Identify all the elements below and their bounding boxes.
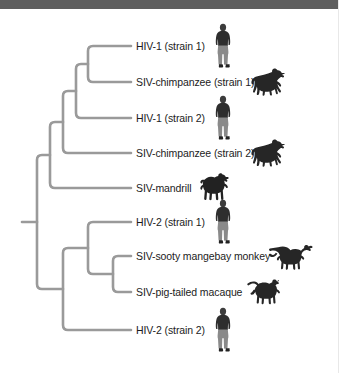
human-silhouette-icon bbox=[210, 23, 236, 69]
mangabey-monkey-silhouette-icon bbox=[268, 239, 320, 273]
tip-label-hiv1-strain1: HIV-1 (strain 1) bbox=[136, 40, 205, 52]
tip-label-siv-sooty-mangabey: SIV-sooty mangebay monkey bbox=[136, 250, 270, 262]
macaque-silhouette-icon bbox=[245, 276, 285, 308]
tip-label-hiv1-strain2: HIV-1 (strain 2) bbox=[136, 112, 205, 124]
tip-label-hiv2-strain2: HIV-2 (strain 2) bbox=[136, 324, 205, 336]
human-silhouette-icon bbox=[210, 199, 236, 245]
human-silhouette-icon bbox=[210, 95, 236, 141]
tip-label-hiv2-strain1: HIV-2 (strain 1) bbox=[136, 216, 205, 228]
human-silhouette-icon bbox=[210, 307, 236, 353]
node-hiv2-clade bbox=[63, 248, 131, 330]
node-hiv1s1-sivchimps1 bbox=[88, 46, 131, 82]
node-clade-chimp-hiv1 bbox=[63, 91, 131, 153]
figure-canvas: HIV-1 (strain 1)SIV-chimpanzee (strain 1… bbox=[0, 0, 352, 373]
node-hiv2s1-monkeys bbox=[88, 222, 131, 274]
chimpanzee-silhouette-icon bbox=[248, 137, 290, 169]
node-clade-hiv1-group bbox=[76, 64, 131, 118]
tip-label-siv-chimp-strain2: SIV-chimpanzee (strain 2) bbox=[136, 147, 254, 159]
node-mangabey-macaque bbox=[113, 256, 131, 292]
tip-label-siv-chimp-strain1: SIV-chimpanzee (strain 1) bbox=[136, 76, 254, 88]
tip-label-siv-pig-tailed-macaque: SIV-pig-tailed macaque bbox=[136, 286, 242, 298]
tip-label-siv-mandrill: SIV-mandrill bbox=[136, 182, 191, 194]
chimpanzee-silhouette-icon bbox=[248, 66, 290, 98]
